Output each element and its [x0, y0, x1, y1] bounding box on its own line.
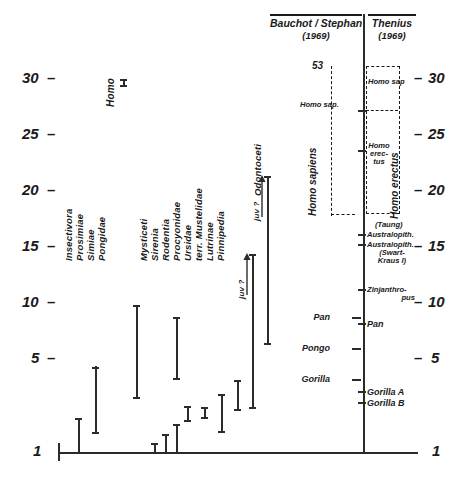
range-bar-insectivora	[78, 418, 80, 452]
thenius-tick-australopith-swartkraus	[358, 244, 366, 246]
taxon-label-pongidae: Pongidae	[96, 217, 107, 261]
thenius-tick-zinjanthropus	[358, 289, 366, 291]
range-cap-pinnipedia-bottom	[249, 407, 256, 409]
bauchot-range-label: Homo sapiens	[307, 148, 318, 216]
range-cap-sirenia-top	[162, 434, 169, 436]
thenius-entry-zinjanthropus-l2: pus	[367, 294, 415, 302]
range-bar-terr-mustelidae	[221, 394, 223, 433]
right-tick-label-20: 20	[428, 182, 445, 197]
right-tick-dash-10: –	[414, 294, 422, 309]
column-divider	[363, 14, 365, 452]
bauchot-top-value: 53	[312, 60, 323, 71]
taxon-label-insectivora: Insectivora	[63, 209, 74, 261]
taxon-label-prosimiae: Prosimiae	[74, 214, 85, 261]
thenius-entry-gorilla-a: Gorilla A	[367, 388, 404, 397]
taxon-label-sirenia: Sirenia	[149, 228, 160, 261]
range-bar-rodentia	[176, 424, 178, 452]
range-bar-sirenia	[165, 434, 167, 452]
header-thenius-title: Thenius	[368, 17, 416, 29]
marker-homo-cap-top	[120, 79, 127, 81]
bauchot-entry-homo-sap: Homo sap.	[300, 101, 330, 109]
left-tick-label-5: 5	[31, 350, 39, 365]
header-rule-right	[368, 14, 416, 16]
taxon-label-lutrinae: Lutrinae	[204, 222, 215, 261]
range-cap-ursidae-bottom	[201, 417, 208, 419]
range-cap-mysticeti-top	[151, 443, 158, 445]
right-tick-dash-20: –	[414, 182, 422, 197]
bauchot-tick-gorilla	[352, 379, 361, 381]
marker-prosimiae-point	[95, 366, 97, 373]
range-bar-pongidae	[176, 317, 178, 380]
taxon-label-pinnipedia: Pinnipedia	[215, 211, 226, 261]
annotation-arrow-odontoceti	[255, 174, 269, 218]
left-tick-label-30: 30	[22, 70, 39, 85]
range-cap-simiae-bottom	[133, 397, 140, 399]
left-tick-label-15: 15	[22, 238, 39, 253]
range-cap-insectivora-top	[75, 418, 82, 420]
right-tick-dash-25: –	[414, 126, 422, 141]
thenius-homo-sap-divider	[366, 110, 398, 111]
range-cap-procyonidae-bottom	[184, 420, 191, 422]
thenius-entry-pan: Pan	[367, 320, 384, 329]
right-tick-dash-5: –	[414, 350, 422, 365]
thenius-side-label-homo-erectus: Homo erectus	[389, 152, 400, 219]
thenius-tick-homo-sap	[358, 110, 366, 112]
header-thenius-year: (1969)	[368, 30, 416, 41]
range-cap-rodentia-top	[173, 424, 180, 426]
right-tick-label-10: 10	[428, 294, 445, 309]
baseline-axis	[58, 452, 418, 454]
bauchot-entry-pongo: Pongo	[292, 344, 330, 353]
left-tick-dash-15: –	[47, 238, 55, 253]
range-cap-terr-mustelidae-bottom	[218, 431, 225, 433]
left-tick-dash-20: –	[47, 182, 55, 197]
range-cap-prosimiae-bottom	[92, 432, 99, 434]
thenius-box-label-homo-sap: Homo sap	[368, 78, 396, 86]
range-bar-prosimiae	[95, 367, 97, 434]
thenius-tick-australopith	[358, 234, 366, 236]
right-tick-label-15: 15	[428, 238, 445, 253]
right-tick-dash-15: –	[414, 238, 422, 253]
range-cap-lutrinae-bottom	[234, 409, 241, 411]
thenius-tick-gorilla-b	[358, 402, 366, 404]
range-bar-simiae	[136, 305, 138, 399]
header-bauchot-title: Bauchot / Stephan	[270, 17, 362, 29]
bauchot-entry-gorilla: Gorilla	[288, 375, 330, 384]
right-tick-label-30: 30	[428, 70, 445, 85]
taxon-label-homo: Homo	[105, 78, 116, 107]
thenius-tick-pan	[358, 323, 366, 325]
range-cap-procyonidae-top	[184, 406, 191, 408]
left-tick-dash-30: –	[47, 70, 55, 85]
right-tick-label-25: 25	[428, 126, 445, 141]
thenius-entry-australopith: Australopith.	[367, 231, 414, 239]
taxon-label-rodentia: Rodentia	[160, 219, 171, 261]
bauchot-tick-pongo	[352, 348, 361, 350]
range-cap-ursidae-top	[201, 407, 208, 409]
header-bauchot-year: (1969)	[270, 30, 362, 41]
annotation-arrow-pinnipedia	[240, 252, 254, 296]
bauchot-homo-sapiens-range	[331, 66, 332, 216]
marker-homo-cap-bottom	[120, 85, 127, 87]
baseline-left-tick	[58, 443, 60, 461]
figure-canvas: 30 – 25 – 20 – 15 – 10 – 5 – 1 – 30 – 25…	[0, 0, 462, 486]
right-tick-label-5: 5	[431, 350, 439, 365]
header-rule-left	[270, 14, 362, 16]
left-tick-label-1: 1	[33, 443, 41, 458]
left-tick-label-10: 10	[22, 294, 39, 309]
taxon-label-ursidae: Ursidae	[182, 225, 193, 261]
left-tick-dash-25: –	[47, 126, 55, 141]
thenius-tick-gorilla-a	[358, 391, 366, 393]
left-tick-label-20: 20	[22, 182, 39, 197]
range-cap-pongidae-bottom	[173, 378, 180, 380]
taxon-label-simiae: Simiae	[85, 229, 96, 261]
bauchot-homo-sapiens-foot	[331, 214, 355, 216]
left-tick-dash-5: –	[47, 350, 55, 365]
thenius-entry-gorilla-b: Gorilla B	[367, 399, 405, 408]
range-cap-terr-mustelidae-top	[218, 394, 225, 396]
range-cap-pongidae-top	[173, 317, 180, 319]
range-cap-lutrinae-top	[234, 380, 241, 382]
left-tick-label-25: 25	[22, 126, 39, 141]
taxon-label-mysticeti: Mysticeti	[138, 219, 149, 261]
thenius-tick-homo-erectus	[358, 150, 366, 152]
left-tick-dash-10: –	[47, 294, 55, 309]
right-tick-dash-30: –	[414, 70, 422, 85]
